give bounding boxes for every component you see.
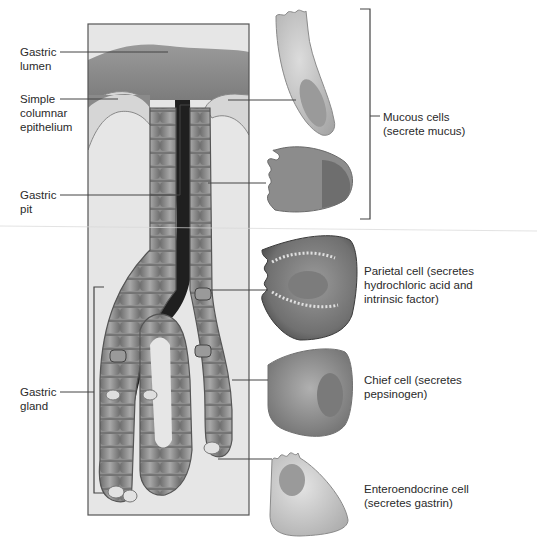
parietal-cell-nucleus xyxy=(288,271,328,299)
scan-artifact xyxy=(0,226,537,231)
mucous-cells-bracket xyxy=(360,9,370,219)
label-gastric-gland: Gastric gland xyxy=(20,385,56,413)
label-parietal-cell: Parietal cell (secretes hydrochloric aci… xyxy=(364,264,474,306)
label-simple-columnar-epithelium: Simple columnar epithelium xyxy=(20,92,72,134)
enteroendocrine-cell xyxy=(270,453,348,536)
chief-cell-nucleus xyxy=(317,373,343,417)
gastric-lumen-region xyxy=(88,44,249,100)
label-chief-cell: Chief cell (secretes pepsinogen) xyxy=(364,373,462,401)
label-gastric-pit: Gastric pit xyxy=(20,188,56,216)
label-enteroendocrine-cell: Enteroendocrine cell (secretes gastrin) xyxy=(364,482,469,510)
label-mucous-cells: Mucous cells (secrete mucus) xyxy=(383,110,465,138)
enteroendocrine-cell-nucleus xyxy=(279,464,305,496)
label-gastric-lumen: Gastric lumen xyxy=(20,45,56,73)
